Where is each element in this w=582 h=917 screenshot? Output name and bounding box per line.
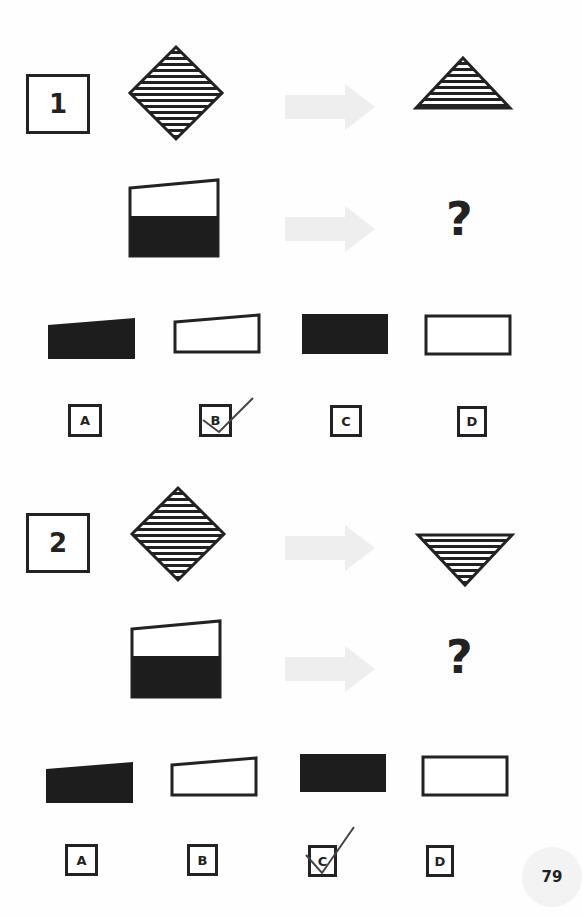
option-c-black-rectangle[interactable]	[302, 314, 388, 354]
option-a-label[interactable]: A	[68, 404, 102, 437]
option-d-label[interactable]: D	[426, 845, 454, 877]
question-number-label: 2	[49, 528, 67, 558]
option-letter: A	[76, 853, 86, 868]
option-letter: A	[80, 413, 90, 428]
checkmark-icon	[201, 398, 257, 440]
page-number: 79	[542, 868, 563, 886]
striped-upward-triangle-shape	[414, 56, 512, 110]
option-d-white-rectangle[interactable]	[421, 755, 509, 797]
striped-downward-triangle-shape	[416, 533, 514, 587]
option-a-label[interactable]: A	[65, 844, 98, 876]
option-d-white-rectangle[interactable]	[424, 314, 512, 356]
half-filled-quadrilateral-shape	[128, 178, 220, 258]
question-mark-icon: ?	[446, 196, 473, 242]
striped-diamond-shape	[130, 486, 226, 582]
option-a-black-trapezoid[interactable]	[47, 317, 137, 361]
option-b-label[interactable]: B	[187, 844, 218, 876]
option-letter: D	[435, 854, 446, 869]
option-letter: B	[198, 853, 208, 868]
option-c-black-rectangle[interactable]	[300, 754, 386, 792]
half-filled-quadrilateral-shape	[130, 619, 222, 699]
right-arrow-icon	[285, 206, 377, 252]
option-b-white-trapezoid[interactable]	[172, 313, 262, 355]
question-mark-icon: ?	[446, 634, 473, 680]
option-letter: D	[467, 414, 478, 429]
option-b-white-trapezoid[interactable]	[169, 756, 259, 798]
question-number-2: 2	[26, 513, 90, 573]
option-d-label[interactable]: D	[457, 406, 487, 437]
checkmark-icon	[304, 825, 356, 881]
page-number-badge: 79	[522, 847, 582, 907]
striped-diamond-shape	[128, 45, 224, 141]
right-arrow-icon	[285, 525, 377, 571]
question-number-label: 1	[49, 89, 67, 119]
option-c-label[interactable]: C	[330, 405, 362, 437]
option-letter: C	[341, 414, 351, 429]
question-number-1: 1	[26, 74, 90, 134]
right-arrow-icon	[285, 84, 377, 130]
right-arrow-icon	[285, 646, 377, 692]
option-a-black-trapezoid[interactable]	[45, 761, 135, 804]
